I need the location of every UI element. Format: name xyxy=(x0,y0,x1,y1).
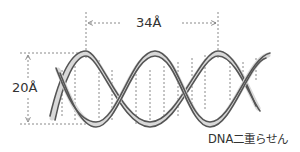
pitch-label: 34Å xyxy=(136,16,161,29)
diagram-caption: DNA二重らせん xyxy=(208,134,288,146)
dna-strand-b xyxy=(56,51,270,127)
diameter-label: 20Å xyxy=(12,81,37,94)
